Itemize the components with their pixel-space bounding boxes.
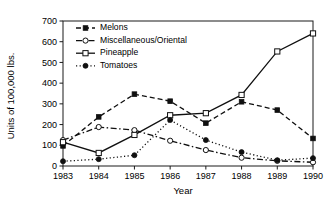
data-point-marker [96, 150, 101, 155]
y-tick-label: 500 [42, 58, 57, 68]
data-point-marker [168, 99, 173, 104]
data-point-marker [132, 153, 137, 158]
data-point-marker [96, 124, 101, 129]
y-tick-label: 300 [42, 99, 57, 109]
series-path [63, 94, 313, 146]
data-point-marker [61, 159, 66, 164]
data-point-marker [168, 138, 173, 143]
data-point-marker [239, 155, 244, 160]
x-tick-label: 1983 [53, 171, 73, 181]
data-point-marker [239, 99, 244, 104]
x-tick-label: 1985 [124, 171, 144, 181]
data-point-marker [275, 108, 280, 113]
legend-label: Melons [100, 22, 128, 32]
y-axis-ticks: 0100200300400500600700 [42, 16, 63, 171]
data-point-marker [60, 140, 65, 145]
y-tick-label: 0 [52, 161, 57, 171]
legend-item-tomatoes: Tomatoes [76, 60, 137, 70]
data-point-marker [96, 115, 101, 120]
x-tick-label: 1988 [232, 171, 252, 181]
data-point-marker [275, 158, 280, 163]
data-point-marker [83, 38, 88, 43]
x-tick-label: 1990 [303, 171, 323, 181]
x-tick-label: 1989 [267, 171, 287, 181]
y-tick-label: 700 [42, 16, 57, 26]
legend-item-miscellaneous-oriental: Miscellaneous/Oriental [76, 35, 187, 45]
data-point-marker [83, 26, 88, 31]
series-melons [61, 92, 316, 148]
series-group [60, 31, 315, 165]
data-point-marker [310, 31, 315, 36]
legend-item-melons: Melons [76, 22, 128, 32]
data-point-marker [83, 63, 88, 68]
line-chart: 0100200300400500600700 19831984198519861… [0, 0, 324, 199]
data-point-marker [203, 147, 208, 152]
data-point-marker [168, 118, 173, 123]
legend-label: Pineapple [100, 47, 138, 57]
chart-canvas: 0100200300400500600700 19831984198519861… [0, 0, 324, 199]
y-tick-label: 600 [42, 37, 57, 47]
chart-legend: MelonsMiscellaneous/OrientalPineappleTom… [76, 22, 187, 70]
data-point-marker [203, 111, 208, 116]
data-point-marker [168, 113, 173, 118]
data-point-marker [132, 132, 137, 137]
x-tick-label: 1986 [160, 171, 180, 181]
data-point-marker [203, 138, 208, 143]
y-axis-title: Units of 100,000 lbs. [5, 53, 16, 140]
data-point-marker [239, 150, 244, 155]
data-point-marker [311, 156, 316, 161]
data-point-marker [311, 136, 316, 141]
data-point-marker [83, 51, 88, 56]
data-point-marker [132, 92, 137, 97]
x-tick-label: 1984 [89, 171, 109, 181]
y-tick-label: 100 [42, 140, 57, 150]
legend-label: Tomatoes [100, 60, 137, 70]
data-point-marker [239, 92, 244, 97]
x-tick-label: 1987 [196, 171, 216, 181]
legend-label: Miscellaneous/Oriental [100, 35, 187, 45]
legend-item-pineapple: Pineapple [76, 47, 138, 57]
data-point-marker [275, 49, 280, 54]
x-axis-ticks: 19831984198519861987198819891990 [53, 166, 323, 181]
data-point-marker [96, 157, 101, 162]
x-axis-title: Year [173, 185, 192, 196]
y-tick-label: 200 [42, 120, 57, 130]
data-point-marker [204, 121, 209, 126]
y-tick-label: 400 [42, 78, 57, 88]
series-pineapple [60, 31, 315, 156]
